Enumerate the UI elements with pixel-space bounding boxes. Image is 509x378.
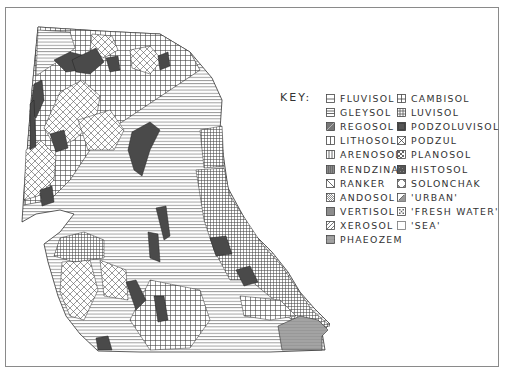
legend-label: VERTISOL — [340, 206, 395, 217]
arenosol-swatch-icon — [326, 150, 335, 159]
legend-item-andosol: ANDOSOL — [326, 190, 403, 204]
cambisol-swatch-icon — [397, 94, 406, 103]
xerosol-swatch-icon — [326, 221, 335, 230]
legend-item-vertisol: VERTISOL — [326, 205, 403, 219]
fresh-water-swatch-icon — [397, 207, 406, 216]
legend-item-luvisol: LUVISOL — [397, 105, 499, 119]
legend-label: ANDOSOL — [340, 192, 395, 203]
vertisol-swatch-icon — [326, 207, 335, 216]
legend-label: FLUVISOL — [340, 93, 395, 104]
legend-label: RANKER — [340, 178, 386, 189]
legend-item-histosol: HISTOSOL — [397, 162, 499, 176]
legend-column-2: CAMBISOL LUVISOL PODZOLUVISOL PODZUL PLA… — [397, 91, 499, 233]
legend-label: XEROSOL — [340, 220, 394, 231]
legend-label: CAMBISOL — [411, 93, 470, 104]
legend-label: PHAEOZEM — [340, 234, 403, 245]
legend-label: PLANOSOL — [411, 149, 471, 160]
map-landmass — [22, 27, 330, 352]
legend-label: RENDZINA — [340, 164, 399, 175]
gleysol-swatch-icon — [326, 108, 335, 117]
phaeozem-swatch-icon — [326, 235, 335, 244]
legend-label: ARENOSOL — [340, 149, 402, 160]
regosol-swatch-icon — [326, 122, 335, 131]
legend-label: GLEYSOL — [340, 107, 391, 118]
legend-label: PODZOLUVISOL — [411, 121, 499, 132]
legend-item-fresh-water: 'FRESH WATER' — [397, 205, 499, 219]
legend-label: SOLONCHAK — [411, 178, 481, 189]
legend-item-gleysol: GLEYSOL — [326, 105, 403, 119]
legend-item-urban: 'URBAN' — [397, 190, 499, 204]
legend-label: LITHOSOL — [340, 135, 397, 146]
legend-label: PODZUL — [411, 135, 457, 146]
legend-item-regosol: REGOSOL — [326, 119, 403, 133]
fluvisol-swatch-icon — [326, 94, 335, 103]
sea-swatch-icon — [397, 221, 406, 230]
legend-item-phaeozem: PHAEOZEM — [326, 233, 403, 247]
histosol-swatch-icon — [397, 165, 406, 174]
lithosol-swatch-icon — [326, 136, 335, 145]
legend-label: HISTOSOL — [411, 164, 468, 175]
legend-label: 'URBAN' — [411, 192, 458, 203]
planosol-swatch-icon — [397, 150, 406, 159]
legend-item-lithosol: LITHOSOL — [326, 134, 403, 148]
legend-item-ranker: RANKER — [326, 176, 403, 190]
luvisol-swatch-icon — [397, 108, 406, 117]
legend-item-arenosol: ARENOSOL — [326, 148, 403, 162]
legend-label: REGOSOL — [340, 121, 394, 132]
solonchak-swatch-icon — [397, 179, 406, 188]
legend-label: 'FRESH WATER' — [411, 206, 499, 217]
podzoluvisol-swatch-icon — [397, 122, 406, 131]
legend-item-podzoluvisol: PODZOLUVISOL — [397, 119, 499, 133]
legend-label: LUVISOL — [411, 107, 459, 118]
legend-item-cambisol: CAMBISOL — [397, 91, 499, 105]
legend-item-planosol: PLANOSOL — [397, 148, 499, 162]
legend-column-1: FLUVISOL GLEYSOL REGOSOL LITHOSOL ARENOS… — [326, 91, 403, 247]
legend-item-sea: 'SEA' — [397, 219, 499, 233]
legend-item-fluvisol: FLUVISOL — [326, 91, 403, 105]
legend-item-xerosol: XEROSOL — [326, 219, 403, 233]
andosol-swatch-icon — [326, 193, 335, 202]
key-title: KEY: — [280, 91, 311, 104]
podzul-swatch-icon — [397, 136, 406, 145]
legend-item-solonchak: SOLONCHAK — [397, 176, 499, 190]
ranker-swatch-icon — [326, 179, 335, 188]
legend-item-podzul: PODZUL — [397, 134, 499, 148]
rendzina-swatch-icon — [326, 165, 335, 174]
legend-item-rendzina: RENDZINA — [326, 162, 403, 176]
urban-swatch-icon — [397, 193, 406, 202]
legend-label: 'SEA' — [411, 220, 441, 231]
